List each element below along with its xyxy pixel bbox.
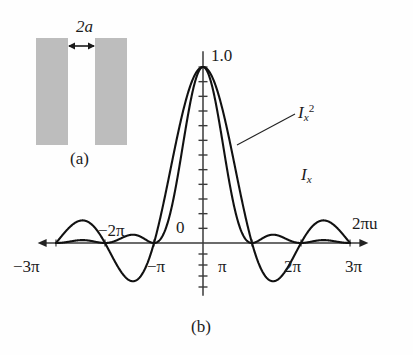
series-label-ix-squared: Ix2 (298, 103, 314, 124)
y-axis-max-label: 1.0 (211, 47, 232, 64)
x-tick-label-2pi: 2π (284, 258, 301, 275)
aperture-block-right (95, 38, 127, 145)
x-axis-title: 2πu (352, 215, 378, 232)
aperture-arrowhead-right (88, 42, 95, 49)
x-axis-arrow-left (38, 239, 47, 247)
x-axis-title-text: 2πu (352, 214, 378, 233)
x-tick-label-3pi: 3π (345, 258, 362, 275)
leader-line-ix-squared (237, 114, 295, 145)
figure-diffraction-intensity: 2a (a) (b) 1.0 0 −3π −2π −π π 2π 3π 2πu … (0, 0, 413, 355)
series-label-ix-subscript: x (307, 173, 312, 185)
x-tick-label-negpi: −π (147, 258, 165, 275)
x-tick-label-neg3pi: −3π (13, 258, 40, 275)
aperture-block-left (36, 38, 68, 145)
y-axis-zero-label: 0 (176, 219, 185, 236)
aperture-width-label: 2a (76, 18, 93, 35)
aperture-arrowhead-left (68, 42, 75, 49)
panel-a-label: (a) (70, 150, 89, 167)
panel-b-label: (b) (191, 318, 211, 335)
series-label-ix: Ix (301, 166, 312, 185)
x-tick-label-pi: π (218, 258, 227, 275)
series-label-ix-squared-superscript: 2 (309, 102, 315, 114)
x-tick-label-neg2pi: −2π (98, 222, 125, 239)
figure-canvas (0, 0, 413, 355)
x-axis-arrow-right (359, 239, 368, 247)
